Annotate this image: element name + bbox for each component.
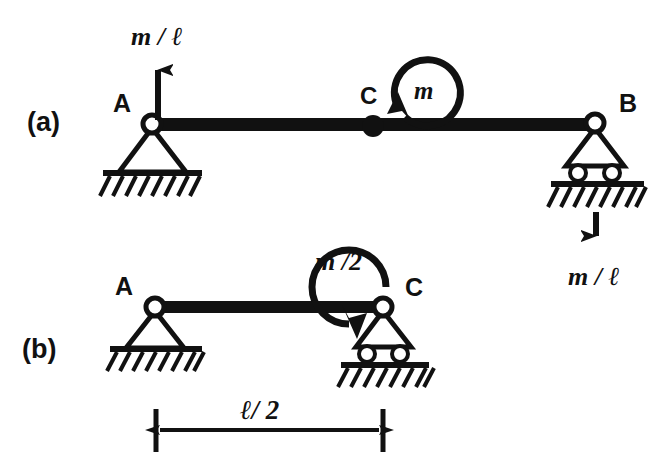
panel-a-label: (a) bbox=[27, 107, 60, 137]
panel-b: (b) bbox=[22, 247, 434, 387]
panel-b-label: (b) bbox=[22, 334, 56, 364]
node-label-a-panel-b: A bbox=[115, 272, 133, 300]
dimension-label: ℓ/ 2 bbox=[240, 395, 279, 425]
moment-label-panel-b: m /2 bbox=[315, 247, 362, 276]
half-span-dimension: ℓ/ 2 bbox=[156, 395, 383, 452]
beam-b bbox=[155, 301, 384, 313]
node-dot-c-panel-a bbox=[362, 115, 384, 137]
force-label-right: m / ℓ bbox=[568, 262, 620, 291]
diagram-canvas: (a) bbox=[0, 0, 667, 469]
force-label-left: m / ℓ bbox=[131, 22, 183, 51]
moment-label-panel-a: m bbox=[414, 77, 433, 104]
node-label-a-panel-a: A bbox=[113, 89, 131, 117]
node-label-b-panel-a: B bbox=[619, 89, 637, 117]
node-label-c-panel-a: C bbox=[360, 82, 377, 109]
beam-diagram-figure: (a) bbox=[0, 0, 667, 469]
node-label-c-panel-b: C bbox=[405, 273, 423, 301]
